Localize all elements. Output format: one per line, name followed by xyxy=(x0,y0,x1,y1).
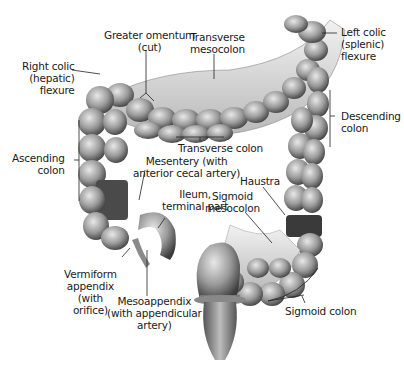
label-mesentery: Mesentery (with anterior cecal artery) xyxy=(133,155,240,179)
label-transverse-mesocolon: Transverse mesocolon xyxy=(190,31,245,55)
label-mesoappendix: Mesoappendix (with appendicular artery) xyxy=(107,295,202,331)
label-haustra: Haustra xyxy=(240,175,280,187)
colon-anatomy-figure: Greater omentum (cut) Transverse mesocol… xyxy=(0,0,404,367)
label-left-colic-flexure: Left colic (splenic) flexure xyxy=(341,26,386,62)
rectum-shape xyxy=(194,295,246,360)
label-ascending-colon: Ascending colon xyxy=(12,152,65,176)
sigmoid-colon-shape xyxy=(197,225,318,306)
label-sigmoid-colon: Sigmoid colon xyxy=(285,305,356,317)
label-transverse-colon: Transverse colon xyxy=(178,142,263,154)
label-greater-omentum: Greater omentum (cut) xyxy=(104,29,195,53)
label-descending-colon: Descending colon xyxy=(341,110,401,134)
label-sigmoid-mesocolon: Sigmoid mesocolon xyxy=(205,190,260,214)
ileum-shape xyxy=(132,212,176,268)
haustra-cutaway xyxy=(286,215,322,237)
label-right-colic-flexure: Right colic (hepatic) flexure xyxy=(22,60,75,96)
